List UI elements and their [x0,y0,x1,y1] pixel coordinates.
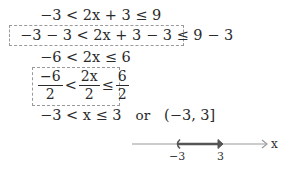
tick-label-neg3: −3 [169,150,185,163]
closed-endpoint-marker [218,140,223,149]
axis-label-x: x [271,137,278,151]
number-line: x −3 3 [0,0,296,170]
tick-label-3: 3 [217,150,224,163]
